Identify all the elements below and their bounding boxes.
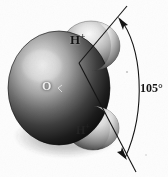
scan-speck <box>145 154 146 155</box>
molecule-illustration <box>0 0 168 177</box>
arrowhead-bottom <box>117 147 127 160</box>
scan-speck <box>126 71 128 73</box>
water-molecule-figure: H+ H+ O 105° <box>0 0 168 177</box>
atom-oxygen <box>8 31 110 145</box>
angle-arc <box>120 19 139 158</box>
